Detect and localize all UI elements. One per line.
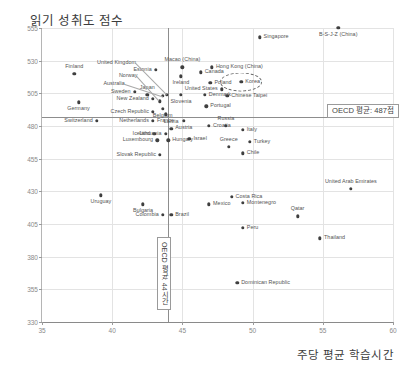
chart-title: 읽기 성취도 점수	[30, 10, 124, 29]
gridline-vertical	[112, 28, 113, 322]
gridline-horizontal	[42, 28, 393, 29]
data-point	[158, 153, 161, 156]
y-tick-label: 380	[27, 253, 38, 260]
data-point	[337, 26, 340, 29]
data-point	[241, 128, 244, 131]
data-point-label: Netherlands	[119, 118, 149, 123]
data-point-label: New Zealand	[117, 96, 149, 101]
data-point	[169, 213, 172, 216]
x-tick-label: 45	[179, 327, 186, 334]
gridline-vertical	[182, 28, 183, 322]
korea-highlight-ellipse	[220, 72, 262, 91]
data-point	[77, 101, 80, 104]
data-point	[95, 119, 98, 122]
gridline-horizontal	[42, 289, 393, 290]
data-point-label: Dominican Republic	[241, 280, 290, 285]
data-point	[209, 81, 212, 84]
data-point	[181, 65, 184, 68]
y-tick-label: 505	[27, 90, 38, 97]
data-point	[241, 152, 244, 155]
y-tick-mark	[39, 224, 42, 225]
y-tick-mark	[39, 28, 42, 29]
x-tick-mark	[393, 322, 394, 325]
data-point-label: B-S-J-Z (China)	[319, 32, 358, 37]
x-tick-mark	[42, 322, 43, 325]
data-point-label: Slovenia	[170, 99, 191, 104]
data-point-label: Macao (China)	[164, 57, 200, 62]
data-point-label: Chile	[247, 151, 260, 156]
data-point-label: Italy	[247, 127, 257, 132]
data-point-label: Czech Republic	[110, 109, 148, 114]
gridline-vertical	[393, 28, 394, 322]
gridline-horizontal	[42, 191, 393, 192]
y-tick-label: 480	[27, 123, 38, 130]
data-point-label: Peru	[247, 225, 259, 230]
data-point-label: Luxembourg	[123, 138, 153, 143]
x-tick-mark	[112, 322, 113, 325]
data-point-label: Brazil	[175, 212, 189, 217]
data-point-label: Switzerland	[64, 118, 92, 123]
data-point-label: Turkey	[254, 139, 271, 144]
data-point	[167, 139, 170, 142]
data-point-label: Thailand	[324, 236, 345, 241]
y-tick-mark	[39, 93, 42, 94]
data-point-label: Finland	[65, 64, 83, 69]
oecd-hours-mean-label: OECD 평균: 44시간	[157, 237, 171, 310]
y-tick-mark	[39, 191, 42, 192]
data-point	[235, 281, 238, 284]
data-point	[161, 107, 164, 110]
oecd-score-mean-label: OECD 평균: 487점	[327, 104, 399, 118]
data-point-label: Australia	[103, 81, 124, 86]
data-point	[318, 237, 321, 240]
data-point	[169, 127, 172, 130]
x-tick-mark	[253, 322, 254, 325]
data-point-label: United Kingdom	[97, 61, 136, 66]
data-point	[141, 203, 144, 206]
data-point	[349, 187, 352, 190]
y-tick-mark	[39, 159, 42, 160]
data-point-label: Norway	[119, 74, 138, 79]
data-point	[241, 226, 244, 229]
data-point-label: Canada	[205, 70, 224, 75]
x-axis-label: 주당 평균 학습시간	[297, 346, 394, 362]
data-point-label: Slovak Republic	[117, 152, 156, 157]
y-tick-label: 430	[27, 188, 38, 195]
data-point	[207, 124, 210, 127]
data-point-label: Russia	[218, 116, 235, 121]
data-point	[161, 213, 164, 216]
y-tick-label: 530	[27, 57, 38, 64]
x-tick-label: 55	[319, 327, 326, 334]
gridline-horizontal	[42, 257, 393, 258]
y-tick-label: 355	[27, 286, 38, 293]
data-point-label: Colombia	[136, 212, 159, 217]
data-point	[164, 132, 167, 135]
data-point	[203, 93, 206, 96]
data-point-label: Lithuania	[139, 131, 161, 136]
plot-area: 5555305054804554304053803553303540455055…	[41, 28, 393, 323]
data-point	[227, 145, 230, 148]
data-point	[154, 68, 157, 71]
data-point-label: Singapore	[264, 34, 289, 39]
y-tick-mark	[39, 126, 42, 127]
data-point-label: Croatia	[213, 123, 231, 128]
data-point	[241, 201, 244, 204]
data-point	[230, 195, 233, 198]
data-point-label: United States	[185, 87, 218, 92]
data-point-label: Montenegro	[247, 200, 276, 205]
gridline-horizontal	[42, 224, 393, 225]
y-tick-label: 405	[27, 221, 38, 228]
gridline-horizontal	[42, 159, 393, 160]
data-point	[99, 194, 102, 197]
x-tick-label: 35	[38, 327, 45, 334]
y-tick-mark	[39, 289, 42, 290]
y-tick-label: 455	[27, 155, 38, 162]
data-point-label: United Arab Emirates	[325, 179, 377, 184]
data-point-label: Mexico	[213, 202, 230, 207]
data-point	[258, 35, 261, 38]
x-tick-label: 50	[249, 327, 256, 334]
scatter-chart: 읽기 성취도 점수 555530505480455430405380355330…	[0, 0, 408, 368]
data-point-label: Portugal	[210, 104, 230, 109]
data-point	[182, 119, 185, 122]
y-tick-label: 330	[27, 319, 38, 326]
data-point	[207, 203, 210, 206]
